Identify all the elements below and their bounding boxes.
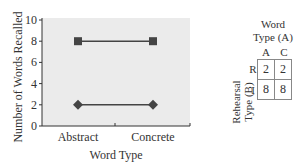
means-table: Word Type (A) Rehearsal Type (B) A C R I…: [214, 12, 298, 122]
y-tick-label: 0: [31, 119, 37, 133]
x-tick-label: Concrete: [131, 130, 174, 144]
square-marker: [149, 37, 157, 45]
square-marker: [74, 37, 82, 45]
y-axis-label: Number of Words Recalled: [11, 11, 25, 142]
y-tick-label: 4: [31, 77, 37, 91]
x-axis-label: Word Type: [90, 148, 143, 162]
table-cell: 2: [258, 60, 275, 80]
x-tick-label: Abstract: [58, 130, 99, 144]
y-tick-label: 6: [31, 55, 37, 69]
table-row: 2 2: [258, 60, 292, 80]
column-header-c: C: [275, 46, 293, 58]
table-grid: 2 2 8 8: [257, 59, 292, 100]
line-chart: 0246810AbstractConcreteWord TypeNumber o…: [0, 0, 214, 166]
table-cell: 2: [275, 60, 292, 80]
y-tick-label: 10: [25, 13, 37, 27]
table-row: 8 8: [258, 80, 292, 100]
y-tick-label: 8: [31, 34, 37, 48]
column-header-a: A: [257, 46, 275, 58]
y-tick-label: 2: [31, 98, 37, 112]
table-cell: 8: [258, 80, 275, 100]
table-title-line2: Type (A): [248, 31, 298, 44]
table-title: Word Type (A): [248, 18, 298, 44]
plot-area: [42, 18, 190, 126]
table-title-line1: Word: [248, 18, 298, 31]
table-row-label: Rehearsal Type (B): [230, 72, 254, 132]
table-cell: 8: [275, 80, 292, 100]
